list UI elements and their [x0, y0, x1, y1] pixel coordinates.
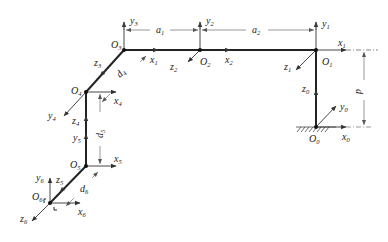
label-x0: x0: [341, 131, 350, 143]
joint-O1: [314, 48, 318, 52]
label-y5: y5: [72, 132, 81, 144]
joint-O2: [198, 48, 202, 52]
label-z1: z1: [283, 61, 291, 73]
label-z6: z6: [19, 213, 28, 225]
z5-axis-arrow: [60, 186, 66, 192]
label-x2: x2: [224, 54, 233, 66]
dim-label-a2: a2: [252, 24, 261, 36]
label-y3: y3: [129, 15, 138, 27]
label-z4: z4: [71, 115, 80, 127]
label-y2: y2: [205, 15, 214, 27]
label-O4: O4: [71, 85, 82, 97]
label-z0: z0: [301, 83, 310, 95]
z2-axis-arrow: [188, 50, 200, 62]
label-y1: y1: [321, 18, 330, 30]
label-y6: y6: [35, 172, 44, 184]
label-x5: x5: [113, 153, 122, 165]
label-x3: x1: [149, 54, 158, 66]
d6-dim-lower: [66, 198, 74, 206]
label-O5: O5: [70, 159, 81, 171]
z6-axis-arrow: [32, 203, 50, 221]
y0-axis-arrow: [316, 106, 336, 127]
d4-dim-upper: [140, 56, 146, 62]
label-x1: x1: [337, 37, 346, 49]
joint-O5: [84, 164, 88, 168]
label-x4: x4: [113, 95, 122, 107]
joint-points: [48, 48, 318, 205]
label-O6: O6: [32, 191, 43, 203]
robot-links: [50, 50, 316, 203]
joint-O0: [314, 125, 318, 129]
dim-label-d4: d4: [114, 65, 129, 80]
dim-label-d5: d5: [94, 129, 106, 138]
d4-dim-lower: [102, 94, 110, 102]
label-O1: O1: [322, 56, 332, 68]
label-O3: O3: [111, 39, 122, 51]
z3-axis-arrow: [100, 70, 106, 76]
dim-label-p: p: [352, 89, 363, 95]
label-y4: y4: [47, 110, 56, 122]
label-z2: z2: [169, 61, 178, 73]
d6-dim-upper: [92, 172, 98, 178]
dim-label-d6: d6: [80, 183, 89, 195]
joint-O6: [48, 201, 52, 205]
label-x6: x6: [77, 206, 86, 218]
label-O2: O2: [200, 56, 211, 68]
joint-O3: [122, 48, 126, 52]
label-y0: y0: [339, 101, 348, 113]
label-O0: O0: [309, 133, 320, 145]
joint-O4: [84, 90, 88, 94]
label-z5: z5: [55, 174, 64, 186]
z1-axis-arrow: [296, 50, 316, 70]
text-labels: O0 O1 O2 O3 O4 O5 O6 x0 y0 z0 x1 y1 z1 x…: [19, 15, 363, 225]
dim-label-a1: a1: [156, 24, 164, 36]
label-z3: z3: [93, 57, 102, 69]
kinematic-diagram: O0 O1 O2 O3 O4 O5 O6 x0 y0 z0 x1 y1 z1 x…: [0, 0, 388, 242]
